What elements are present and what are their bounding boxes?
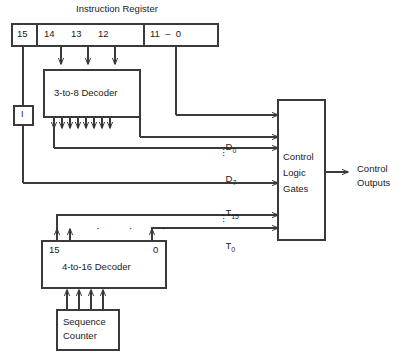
decoder-3to8-label: 3-to-8 Decoder — [54, 88, 117, 98]
decoder-4to16-index-0: 0 — [153, 245, 158, 255]
diagram-canvas: Instruction Register 15 14 13 12 11 – 0 … — [0, 0, 408, 360]
control-logic-line3: Gates — [283, 184, 308, 194]
d-signals-ellipsis: · · · — [222, 148, 225, 157]
signal-t15-sub: 15 — [231, 213, 239, 220]
mode-bit-i-label: I — [21, 110, 24, 120]
signal-d7-sub: 7 — [232, 179, 236, 186]
signal-t0-sub: 0 — [231, 246, 235, 253]
ir-field-11-0: 11 – 0 — [150, 29, 181, 39]
diagram-lines — [0, 0, 408, 360]
control-outputs-line2: Outputs — [357, 178, 390, 188]
diagram-title: Instruction Register — [76, 4, 158, 14]
ir-field-13: 13 — [71, 29, 82, 39]
control-logic-line1: Control — [283, 152, 314, 162]
signal-d0-sub: 0 — [232, 147, 236, 154]
ir-field-12: 12 — [98, 29, 109, 39]
sequence-counter-line2: Counter — [63, 331, 97, 341]
ir-field-15: 15 — [17, 29, 28, 39]
t-signals-ellipsis: · · · — [222, 214, 225, 223]
ir-field-14: 14 — [44, 29, 55, 39]
decoder-4to16-label: 4-to-16 Decoder — [62, 262, 131, 272]
decoder-4to16-ellipsis: · · · — [96, 222, 170, 234]
decoder-4to16-index-15: 15 — [49, 245, 60, 255]
sequence-counter-line1: Sequence — [63, 317, 106, 327]
control-logic-line2: Logic — [283, 168, 306, 178]
signal-t0: T0 — [215, 231, 235, 264]
signal-d0: D0 — [215, 132, 236, 165]
signal-t15: T15 — [215, 198, 239, 231]
signal-d7: D7 — [215, 164, 236, 197]
control-outputs-line1: Control — [357, 164, 388, 174]
